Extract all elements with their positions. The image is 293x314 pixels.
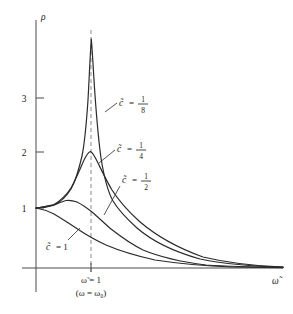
curve-label-one-half-denominator: 2 xyxy=(144,183,148,192)
leader-line-one-eighth xyxy=(105,103,117,112)
x-axis-label-group: ω̃ xyxy=(272,276,283,286)
y-tick-group: 1 2 3 xyxy=(22,94,44,214)
curve-c-one xyxy=(36,208,283,268)
leader-line-one xyxy=(68,228,80,240)
y-tick-label-3: 3 xyxy=(22,94,27,104)
resonance-marker-labels: ω̃ = 1 (ω = ω₀) xyxy=(76,275,107,298)
curve-c-one-eighth xyxy=(36,39,283,267)
resonance-label-primary: ω̃ = 1 xyxy=(81,275,101,285)
curve-label-one-quarter-denominator: 4 xyxy=(139,152,143,161)
curve-c-one-half xyxy=(36,200,283,267)
curve-label-one-half-equals: = xyxy=(132,175,137,185)
chart-svg: ρ ω̃ 1 2 3 c̃ = 1 xyxy=(0,0,293,314)
curve-label-one-half-numerator: 1 xyxy=(144,172,148,181)
curve-label-one-eighth-group: c̃ = 1 8 xyxy=(105,95,148,115)
curve-label-one-group: c̃ = 1 xyxy=(46,228,80,252)
curve-label-one-symbol: c̃ xyxy=(46,242,51,252)
curve-label-one-quarter-group: c̃ = 1 4 xyxy=(99,141,146,163)
curve-label-one-eighth-denominator: 8 xyxy=(141,106,145,115)
curve-label-one-equals: = 1 xyxy=(56,242,68,252)
curve-label-one-eighth-numerator: 1 xyxy=(141,95,145,104)
y-tick-label-1: 1 xyxy=(22,204,27,214)
y-axis-label: ρ xyxy=(40,12,46,22)
resonance-label-secondary: (ω = ω₀) xyxy=(76,288,107,298)
curve-label-one-quarter-numerator: 1 xyxy=(139,141,143,150)
y-tick-label-2: 2 xyxy=(22,148,27,158)
curve-label-one-half-symbol: c̃ xyxy=(122,175,127,185)
curve-label-one-quarter-symbol: c̃ xyxy=(117,144,122,154)
curve-label-one-quarter-equals: = xyxy=(127,144,132,154)
curve-label-one-eighth-equals: = xyxy=(129,98,134,108)
chart-figure: ρ ω̃ 1 2 3 c̃ = 1 xyxy=(0,0,293,314)
curve-c-one-quarter xyxy=(36,152,283,268)
x-axis-label: ω̃ xyxy=(272,276,283,286)
curve-label-one-half-group: c̃ = 1 2 xyxy=(104,172,151,215)
curve-label-one-eighth-symbol: c̃ xyxy=(119,98,124,108)
